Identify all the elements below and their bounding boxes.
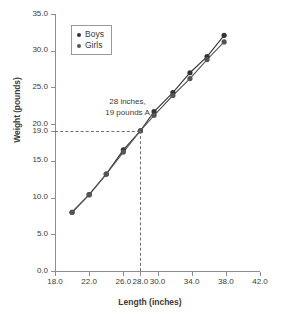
data-point-marker — [87, 192, 92, 197]
annotation-line-2: 19 pounds A — [80, 108, 175, 119]
chart-legend: Boys Girls — [71, 25, 112, 55]
chart-container: Weight (pounds) Length (inches) 0.05.010… — [0, 0, 299, 321]
data-point-marker — [222, 39, 227, 44]
data-point-marker — [204, 57, 209, 62]
series-line — [72, 42, 224, 212]
series-line — [72, 35, 224, 212]
legend-item-boys: Boys — [77, 29, 104, 40]
legend-label: Boys — [85, 29, 104, 40]
legend-item-girls: Girls — [77, 40, 104, 51]
data-point-marker — [187, 70, 192, 75]
vertical-guide-line — [140, 131, 141, 271]
legend-label: Girls — [85, 40, 102, 51]
data-series-layer — [0, 0, 299, 321]
data-point-marker — [187, 76, 192, 81]
horizontal-guide-line — [55, 131, 140, 132]
legend-marker-icon — [77, 44, 81, 48]
annotation-line-1: 28 inches, — [80, 97, 175, 108]
data-point-marker — [121, 149, 126, 154]
data-point-marker — [69, 210, 74, 215]
annotation-point-a: 28 inches, 19 pounds A — [80, 97, 175, 118]
data-point-marker — [104, 171, 109, 176]
legend-marker-icon — [77, 33, 81, 37]
data-point-marker — [222, 33, 227, 38]
